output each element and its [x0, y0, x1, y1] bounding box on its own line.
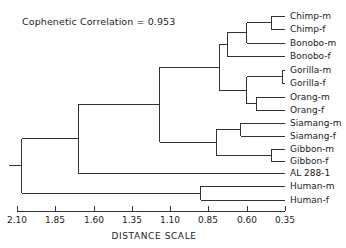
leaf-label: Chimp-m [290, 11, 331, 21]
axis-title: DISTANCE SCALE [111, 231, 196, 241]
leaf-label: Gibbon-f [290, 156, 329, 166]
leaf-label: Human-m [290, 181, 334, 191]
leaf-label: Siamang-f [290, 131, 336, 141]
tick-label: 0.60 [237, 215, 257, 225]
leaf-label: Bonobo-m [290, 38, 336, 48]
leaf-label: Chimp-f [290, 24, 325, 34]
tick-label: 1.10 [160, 215, 180, 225]
cophenetic-correlation-annotation: Cophenetic Correlation = 0.953 [22, 16, 175, 27]
tick-label: 0.35 [275, 215, 295, 225]
leaf-label: Siamang-m [290, 118, 341, 128]
leaf-label: Bonobo-f [290, 51, 331, 61]
tick-label: 1.35 [122, 215, 142, 225]
leaf-label: Gorilla-f [290, 78, 326, 88]
leaf-label: Gorilla-m [290, 65, 331, 75]
leaf-label: AL 288-1 [290, 168, 330, 178]
tick-label: 0.85 [198, 215, 218, 225]
distance-axis [17, 206, 285, 211]
leaf-label: Orang-m [290, 92, 330, 102]
dendrogram-branches [9, 16, 285, 200]
tick-label: 1.60 [84, 215, 104, 225]
tick-label: 1.85 [45, 215, 65, 225]
leaf-label: Orang-f [290, 105, 324, 115]
leaf-label: Gibbon-m [290, 144, 334, 154]
leaf-label: Human-f [290, 195, 329, 205]
tick-label: 2.10 [7, 215, 27, 225]
